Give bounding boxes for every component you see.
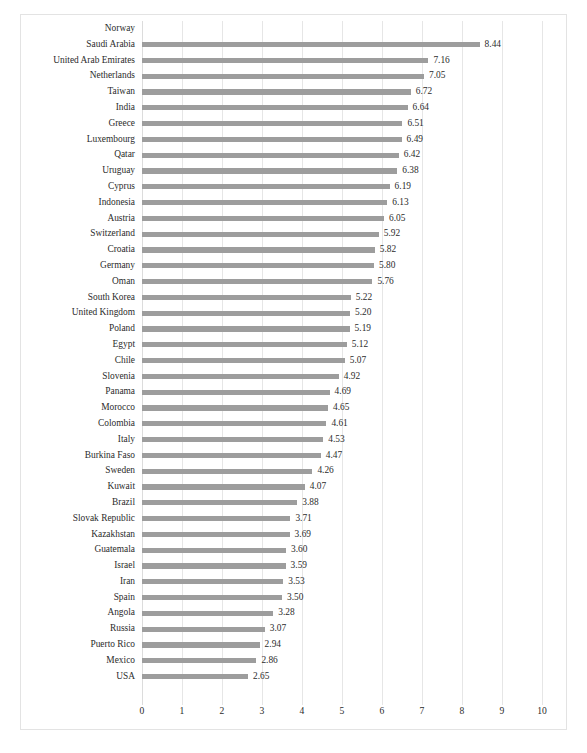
- bar-track: 5.82: [142, 242, 562, 258]
- bar-row: Angola3.28: [21, 605, 568, 621]
- bar-track: 4.53: [142, 432, 562, 448]
- category-label: United Arab Emirates: [21, 53, 135, 69]
- bar: [142, 216, 384, 221]
- bar: [142, 184, 390, 189]
- bar-track: 6.38: [142, 163, 562, 179]
- bar-row: Norway: [21, 21, 568, 37]
- bar-track: 6.49: [142, 132, 562, 148]
- x-tick-label: 2: [207, 705, 237, 716]
- bar-row: Kazakhstan3.69: [21, 527, 568, 543]
- bar-value-label: 7.05: [429, 68, 445, 84]
- bar-value-label: 4.53: [328, 432, 344, 448]
- bar-value-label: 2.65: [253, 669, 269, 685]
- bar-row: United Arab Emirates7.16: [21, 53, 568, 69]
- bar-value-label: 3.07: [270, 621, 286, 637]
- bar-track: 7.16: [142, 53, 562, 69]
- bar-track: 6.19: [142, 179, 562, 195]
- x-tick-label: 1: [167, 705, 197, 716]
- x-tick-label: 3: [247, 705, 277, 716]
- bar-row: Guatemala3.60: [21, 542, 568, 558]
- category-label: Spain: [21, 590, 135, 606]
- category-label: Slovenia: [21, 369, 135, 385]
- category-label: United Kingdom: [21, 305, 135, 321]
- bar-row: Germany5.80: [21, 258, 568, 274]
- x-tick-label: 6: [367, 705, 397, 716]
- category-label: Italy: [21, 432, 135, 448]
- bar-value-label: 3.50: [287, 590, 303, 606]
- bar-row: Chile5.07: [21, 353, 568, 369]
- bar-track: 4.69: [142, 384, 562, 400]
- bar-track: 3.59: [142, 558, 562, 574]
- bar-value-label: 4.69: [335, 384, 351, 400]
- bar-value-label: 6.19: [395, 179, 411, 195]
- bar: [142, 326, 350, 331]
- bar-value-label: 7.16: [433, 53, 449, 69]
- bar-value-label: 5.22: [356, 290, 372, 306]
- bar: [142, 484, 305, 489]
- bar-row: Poland5.19: [21, 321, 568, 337]
- bar-value-label: 3.28: [278, 605, 294, 621]
- bar-row: Cyprus6.19: [21, 179, 568, 195]
- bar-track: 5.20: [142, 305, 562, 321]
- category-label: Uruguay: [21, 163, 135, 179]
- bar-row: Slovenia4.92: [21, 369, 568, 385]
- bar-row: Slovak Republic3.71: [21, 511, 568, 527]
- bar: [142, 563, 286, 568]
- bar-value-label: 6.64: [413, 100, 429, 116]
- bar-value-label: 5.07: [350, 353, 366, 369]
- bar: [142, 595, 282, 600]
- bar-track: 6.13: [142, 195, 562, 211]
- bar-value-label: 4.92: [344, 369, 360, 385]
- bar: [142, 232, 379, 237]
- bar-row: Mexico2.86: [21, 653, 568, 669]
- bar-row: Iran3.53: [21, 574, 568, 590]
- bar-row: Burkina Faso4.47: [21, 448, 568, 464]
- category-label: Guatemala: [21, 542, 135, 558]
- category-label: Luxembourg: [21, 132, 135, 148]
- x-tick-label: 8: [447, 705, 477, 716]
- bar-track: [142, 21, 562, 37]
- category-label: Greece: [21, 116, 135, 132]
- bar-value-label: 4.47: [326, 448, 342, 464]
- bar: [142, 200, 387, 205]
- x-tick-label: 7: [407, 705, 437, 716]
- bar-row: Austria6.05: [21, 211, 568, 227]
- category-label: India: [21, 100, 135, 116]
- category-label: Iran: [21, 574, 135, 590]
- bar-track: 2.86: [142, 653, 562, 669]
- plot-area: NorwaySaudi Arabia8.44United Arab Emirat…: [21, 15, 566, 729]
- bar-track: 4.65: [142, 400, 562, 416]
- bar-value-label: 3.71: [295, 511, 311, 527]
- bar-row: Puerto Rico2.94: [21, 637, 568, 653]
- bar-track: 3.53: [142, 574, 562, 590]
- bar-track: 4.47: [142, 448, 562, 464]
- bar-row: Switzerland5.92: [21, 226, 568, 242]
- category-label: Kuwait: [21, 479, 135, 495]
- bar-value-label: 6.72: [416, 84, 432, 100]
- bar-track: 4.07: [142, 479, 562, 495]
- bar-row: Italy4.53: [21, 432, 568, 448]
- bar-row: Brazil3.88: [21, 495, 568, 511]
- bar: [142, 548, 286, 553]
- bar-value-label: 3.60: [291, 542, 307, 558]
- category-label: Taiwan: [21, 84, 135, 100]
- x-tick-label: 0: [127, 705, 157, 716]
- category-label: Switzerland: [21, 226, 135, 242]
- category-label: Israel: [21, 558, 135, 574]
- bar: [142, 579, 283, 584]
- bar-track: 3.88: [142, 495, 562, 511]
- bar-row: Russia3.07: [21, 621, 568, 637]
- bar: [142, 311, 350, 316]
- x-tick-label: 10: [527, 705, 557, 716]
- bar-row: Uruguay6.38: [21, 163, 568, 179]
- bar-row: Kuwait4.07: [21, 479, 568, 495]
- bar-value-label: 6.49: [407, 132, 423, 148]
- bar-row: India6.64: [21, 100, 568, 116]
- bar-track: 7.05: [142, 68, 562, 84]
- bar-row: Oman5.76: [21, 274, 568, 290]
- bar: [142, 42, 480, 47]
- category-label: South Korea: [21, 290, 135, 306]
- bar: [142, 263, 374, 268]
- bar-value-label: 5.12: [352, 337, 368, 353]
- bar-track: 2.94: [142, 637, 562, 653]
